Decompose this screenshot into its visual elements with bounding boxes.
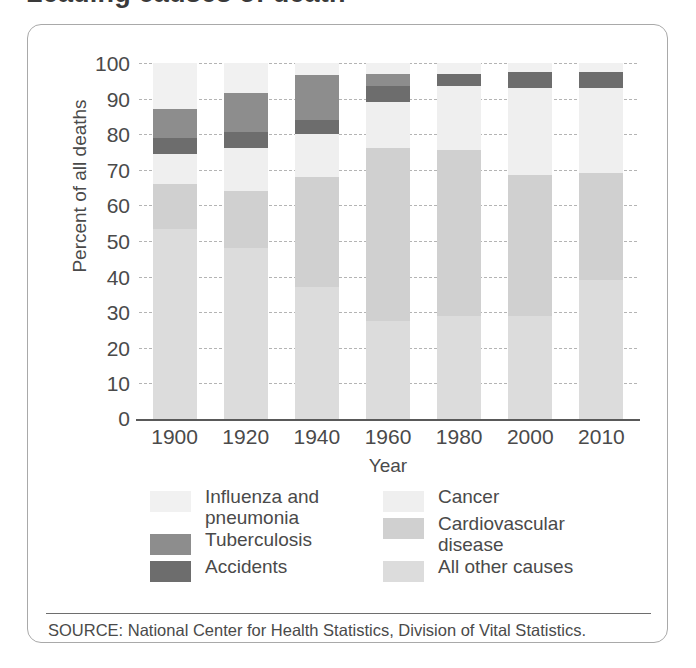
bar-segment: [437, 74, 481, 86]
bar-2010: [579, 63, 623, 419]
y-tick-label: 20: [107, 337, 130, 361]
bar-segment: [224, 93, 268, 132]
bar-segment: [437, 86, 481, 150]
legend-label: Accidents: [205, 557, 287, 578]
legend-label: Tuberculosis: [205, 530, 312, 551]
bar-segment: [508, 175, 552, 316]
bar-segment: [437, 63, 481, 74]
x-axis-line: [136, 419, 640, 421]
plot-region: 0102030405060708090100: [139, 63, 637, 419]
source-divider: [46, 613, 651, 614]
legend-swatch: [150, 534, 191, 555]
bar-segment: [579, 72, 623, 88]
y-tick-label: 70: [107, 159, 130, 183]
y-tick-label: 0: [118, 407, 130, 431]
bar-segment: [153, 109, 197, 137]
y-tick-label: 40: [107, 266, 130, 290]
bar-segment: [366, 74, 410, 86]
bar-segment: [366, 148, 410, 321]
x-tick-label: 2010: [556, 425, 646, 449]
bar-segment: [437, 316, 481, 419]
page-title-text: Leading causes of death: [26, 0, 346, 9]
legend-item: All other causes: [383, 557, 663, 582]
legend-item: Tuberculosis: [150, 530, 400, 555]
bar-1920: [224, 63, 268, 419]
bar-segment: [295, 134, 339, 177]
bar-segment: [579, 88, 623, 173]
bar-segment: [295, 120, 339, 134]
y-tick-label: 60: [107, 194, 130, 218]
bar-segment: [508, 72, 552, 88]
bar-segment: [579, 280, 623, 419]
bar-1900: [153, 63, 197, 419]
bar-segment: [224, 191, 268, 248]
y-axis-label: Percent of all deaths: [69, 71, 91, 301]
bar-segment: [153, 229, 197, 419]
bar-segment: [224, 132, 268, 148]
legend-swatch: [383, 561, 424, 582]
bar-segment: [153, 63, 197, 109]
legend-item: Influenza and pneumonia: [150, 487, 400, 528]
bar-segment: [153, 154, 197, 184]
bar-segment: [153, 184, 197, 229]
bar-segment: [295, 75, 339, 120]
y-tick-label: 30: [107, 301, 130, 325]
bar-segment: [224, 148, 268, 191]
y-tick-label: 10: [107, 372, 130, 396]
legend-swatch: [150, 561, 191, 582]
bar-segment: [366, 102, 410, 148]
y-tick-label: 80: [107, 123, 130, 147]
bar-segment: [508, 88, 552, 175]
bar-1980: [437, 63, 481, 419]
legend-label: Influenza and pneumonia: [205, 487, 319, 528]
bar-segment: [366, 86, 410, 102]
source-note: SOURCE: National Center for Health Stati…: [48, 621, 658, 640]
y-tick-label: 90: [107, 88, 130, 112]
bar-segment: [437, 150, 481, 316]
chart-legend: Influenza and pneumoniaTuberculosisAccid…: [28, 487, 669, 605]
clipped-page-title: Leading causes of death: [0, 0, 696, 20]
y-tick-label: 100: [95, 52, 130, 76]
chart-area: Percent of all deaths 010203040506070809…: [28, 25, 669, 445]
bar-segment: [224, 248, 268, 419]
bar-segment: [295, 63, 339, 75]
legend-item: Cancer: [383, 487, 663, 512]
legend-item: Accidents: [150, 557, 400, 582]
bar-segment: [366, 321, 410, 419]
figure-panel: Percent of all deaths 010203040506070809…: [27, 24, 668, 643]
bar-segment: [224, 63, 268, 93]
legend-label: Cardiovascular disease: [438, 514, 565, 555]
legend-column-right: CancerCardiovascular diseaseAll other ca…: [383, 487, 663, 584]
bar-1960: [366, 63, 410, 419]
bar-segment: [153, 138, 197, 154]
legend-item: Cardiovascular disease: [383, 514, 663, 555]
bar-segment: [295, 287, 339, 419]
legend-swatch: [150, 491, 191, 512]
legend-label: Cancer: [438, 487, 499, 508]
y-tick-label: 50: [107, 230, 130, 254]
legend-swatch: [383, 491, 424, 512]
bar-segment: [508, 316, 552, 419]
bar-segment: [508, 63, 552, 72]
legend-column-left: Influenza and pneumoniaTuberculosisAccid…: [150, 487, 400, 584]
legend-swatch: [383, 518, 424, 539]
legend-label: All other causes: [438, 557, 573, 578]
bar-segment: [295, 177, 339, 287]
bar-segment: [366, 63, 410, 74]
bar-1940: [295, 63, 339, 419]
bar-segment: [579, 63, 623, 72]
bar-2000: [508, 63, 552, 419]
bar-segment: [579, 173, 623, 280]
x-axis-label: Year: [139, 455, 637, 477]
